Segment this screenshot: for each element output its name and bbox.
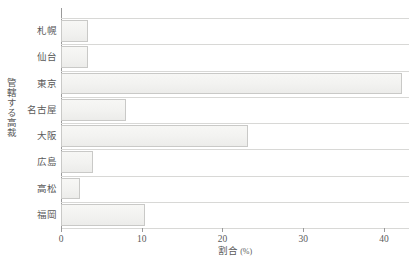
x-tick-mark (384, 228, 385, 232)
y-axis-tick-label: 広島 (37, 149, 57, 175)
bar-row (61, 202, 409, 228)
bar[interactable] (61, 99, 126, 121)
x-axis-title-text: 割合 (218, 246, 238, 256)
y-axis-tick-label: 東京 (37, 71, 57, 97)
bar[interactable] (61, 178, 80, 200)
bar[interactable] (61, 125, 248, 147)
y-axis-tick-label: 仙台 (37, 44, 57, 70)
x-tick-mark (222, 228, 223, 232)
bar-row (61, 44, 409, 70)
x-axis-title-unit: (%) (240, 247, 252, 256)
x-tick-mark (142, 228, 143, 232)
bar-row (61, 123, 409, 149)
bar-row (61, 149, 409, 175)
y-axis-tick-label: 福岡 (37, 202, 57, 228)
gridline (61, 228, 409, 229)
y-axis-tick-label: 名古屋 (27, 97, 57, 123)
bar[interactable] (61, 151, 93, 173)
bar[interactable] (61, 73, 402, 95)
x-tick-mark (303, 228, 304, 232)
bar-row (61, 97, 409, 123)
horizontal-bar-chart: 管轄する高裁 札幌仙台東京名古屋大阪広島高松福岡 010203040 割合 (%… (0, 0, 417, 268)
y-axis-tick-label: 大阪 (37, 123, 57, 149)
y-axis-tick-labels: 札幌仙台東京名古屋大阪広島高松福岡 (16, 18, 59, 228)
bar-row (61, 18, 409, 44)
x-tick-mark (61, 228, 62, 232)
bar[interactable] (61, 204, 145, 226)
y-axis-title: 管轄する高裁 (2, 78, 16, 138)
bar-row (61, 71, 409, 97)
plot-area: 010203040 (61, 8, 409, 228)
bar[interactable] (61, 20, 88, 42)
y-axis-tick-label: 高松 (37, 176, 57, 202)
bar-row (61, 176, 409, 202)
bar[interactable] (61, 46, 88, 68)
y-axis-tick-label: 札幌 (37, 18, 57, 44)
x-axis-title: 割合 (%) (61, 243, 409, 257)
